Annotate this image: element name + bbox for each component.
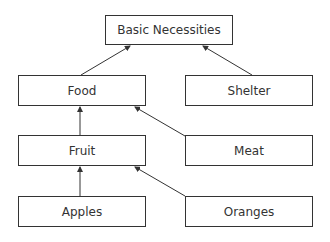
edge-food-to-basic — [81, 46, 130, 75]
node-label: Fruit — [69, 144, 96, 158]
node-basic-necessities: Basic Necessities — [105, 15, 233, 45]
node-meat: Meat — [185, 135, 313, 166]
node-label: Shelter — [228, 84, 271, 98]
node-fruit: Fruit — [18, 135, 146, 166]
edge-shelter-to-basic — [203, 46, 252, 75]
node-shelter: Shelter — [185, 75, 313, 106]
edge-oranges-to-fruit — [135, 167, 185, 196]
node-oranges: Oranges — [185, 196, 313, 227]
node-label: Meat — [234, 144, 264, 158]
node-food: Food — [18, 75, 146, 106]
node-label: Oranges — [224, 205, 275, 219]
edge-meat-to-food — [135, 107, 185, 136]
node-label: Apples — [62, 205, 102, 219]
node-label: Basic Necessities — [117, 23, 220, 37]
node-label: Food — [68, 84, 97, 98]
node-apples: Apples — [18, 196, 146, 227]
